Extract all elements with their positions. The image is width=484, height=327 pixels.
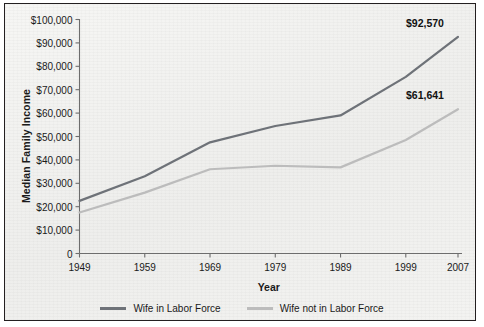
data-series [80,37,459,213]
x-tick-label: 1969 [199,262,221,273]
series-line-1 [80,109,459,212]
y-tick-label: $100,000 [31,14,73,25]
data-point-label: $92,570 [406,17,444,29]
y-tick-label: $70,000 [36,84,72,95]
y-tick-label: $40,000 [36,154,72,165]
y-tick-label: $10,000 [36,225,72,236]
axis-lines [80,19,463,254]
legend-item-1: Wife not in Labor Force [247,303,384,314]
x-tick-label: 1949 [68,262,90,273]
y-axis-title: Median Family Income [20,66,32,226]
y-tick-label: $80,000 [36,61,72,72]
x-tick-label: 2007 [447,262,469,273]
y-tick-label: $50,000 [36,131,72,142]
legend-swatch-icon [100,307,126,310]
y-tick-label: $60,000 [36,108,72,119]
legend-swatch-icon [247,307,273,310]
y-tick-label: $30,000 [36,178,72,189]
y-tick-label: $90,000 [36,37,72,48]
y-tick-label: $20,000 [36,201,72,212]
chart-plot-area [0,0,484,327]
legend-item-0: Wife in Labor Force [100,303,220,314]
x-tick-label: 1979 [264,262,286,273]
x-tick-label: 1999 [395,262,417,273]
legend-label: Wife not in Labor Force [280,303,384,314]
y-tick-label: 0 [67,248,73,259]
x-axis-title: Year [258,281,280,293]
chart-svg [0,0,484,327]
data-point-label: $61,641 [406,89,444,101]
chart-legend: Wife in Labor ForceWife not in Labor For… [0,303,484,314]
series-line-0 [80,37,459,201]
x-tick-label: 1959 [134,262,156,273]
tick-marks [76,20,459,258]
x-tick-label: 1989 [329,262,351,273]
legend-label: Wife in Labor Force [133,303,220,314]
